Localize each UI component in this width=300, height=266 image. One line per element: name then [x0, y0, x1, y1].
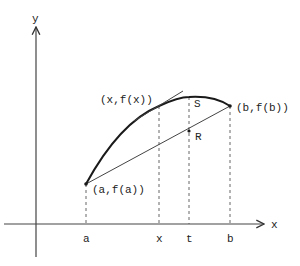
label-point-x: (x,f(x)) — [100, 94, 153, 106]
label-point-b: (b,f(b)) — [236, 102, 289, 114]
tick-label-t: t — [186, 233, 193, 245]
tick-label-a: a — [83, 233, 90, 245]
label-point-r: R — [195, 131, 202, 143]
point-a — [84, 182, 88, 186]
mean-value-diagram: x y (a,f(a)) (x,f(x)) (b,f(b)) S R a x t… — [0, 0, 300, 266]
point-r — [187, 129, 190, 132]
y-axis-label: y — [32, 13, 39, 25]
x-axis-label: x — [271, 219, 278, 231]
tick-label-x: x — [156, 233, 163, 245]
label-point-a: (a,f(a)) — [92, 184, 145, 196]
tick-label-b: b — [227, 233, 234, 245]
point-b — [228, 104, 232, 108]
label-point-s: S — [194, 98, 201, 110]
secant-chord — [86, 106, 230, 184]
function-curve — [86, 97, 230, 184]
